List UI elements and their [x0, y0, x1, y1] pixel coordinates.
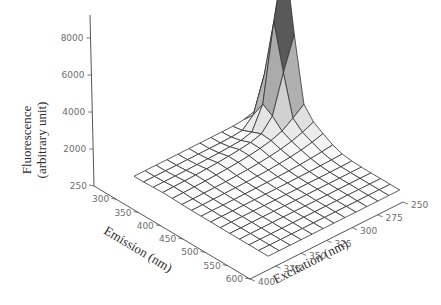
excitation-tick-label: 275: [386, 213, 403, 223]
emission-tick-label: 450: [159, 234, 176, 244]
excitation-tick-label: 300: [360, 226, 377, 236]
z-axis-title-line2: (arbitrary unit): [34, 102, 49, 179]
surface-mesh: [134, 0, 400, 256]
z-axis-line: [90, 15, 94, 186]
z-tick-label: 4000: [62, 107, 85, 117]
excitation-tick: [352, 228, 357, 230]
emission-tick: [89, 185, 94, 186]
emission-tick-label: 400: [137, 221, 154, 231]
excitation-tick: [403, 202, 408, 204]
emission-tick-label: 300: [92, 194, 109, 204]
fluorescence-surface-chart: 2000400060008000250300350400450500550600…: [0, 0, 441, 305]
emission-tick-label: 550: [204, 261, 221, 271]
emission-tick-label: 250: [70, 181, 87, 191]
excitation-tick-label: 250: [411, 200, 428, 210]
excitation-tick: [378, 215, 383, 217]
z-tick-label: 6000: [61, 70, 84, 80]
emission-tick-label: 500: [181, 247, 198, 257]
excitation-tick: [250, 279, 255, 281]
emission-tick-label: 350: [114, 208, 131, 218]
z-axis-title-line1: Fluorescence: [19, 105, 34, 174]
emission-tick-label: 600: [226, 274, 243, 284]
z-tick-label: 8000: [61, 33, 84, 43]
z-tick-label: 2000: [63, 144, 86, 154]
